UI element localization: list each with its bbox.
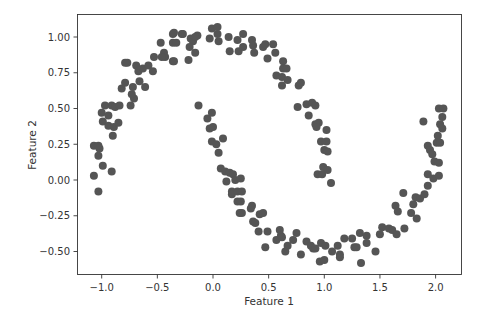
data-point	[279, 57, 287, 65]
data-point	[116, 102, 124, 110]
data-point	[239, 43, 247, 51]
data-point	[297, 79, 305, 87]
data-point	[409, 200, 417, 208]
data-point	[378, 223, 386, 231]
data-point	[294, 103, 302, 111]
data-point	[313, 123, 321, 131]
data-point	[255, 228, 263, 236]
data-point	[353, 243, 361, 251]
data-point	[170, 29, 178, 37]
data-point	[250, 49, 258, 57]
data-point	[434, 132, 442, 140]
data-point	[90, 172, 98, 180]
data-point	[104, 112, 112, 120]
data-point	[215, 37, 223, 45]
data-point	[209, 123, 217, 131]
data-point	[293, 229, 301, 237]
scatter-chart: −1.0−0.50.00.51.01.52.0 1.000.750.500.25…	[0, 0, 480, 323]
data-point	[284, 76, 292, 84]
data-point	[128, 90, 136, 98]
data-point	[251, 219, 259, 227]
data-point	[157, 39, 165, 47]
data-point	[114, 119, 122, 127]
data-point	[94, 152, 102, 160]
data-point	[421, 190, 429, 198]
x-axis-label: Feature 1	[244, 295, 294, 307]
data-point	[99, 162, 107, 170]
data-point	[289, 236, 297, 244]
data-point	[121, 59, 129, 67]
data-point	[323, 126, 331, 134]
data-point	[419, 117, 427, 125]
data-point	[108, 167, 116, 175]
data-point	[264, 228, 272, 236]
data-point	[413, 215, 421, 223]
data-point	[127, 102, 135, 110]
data-point	[311, 245, 319, 253]
data-point	[185, 56, 193, 64]
data-point	[283, 65, 291, 73]
data-point	[172, 39, 180, 47]
data-point	[269, 40, 277, 48]
data-point	[247, 205, 255, 213]
data-point	[109, 132, 117, 140]
data-point	[394, 208, 402, 216]
data-point	[320, 256, 328, 264]
data-point	[435, 172, 443, 180]
data-point	[259, 209, 267, 217]
data-point	[363, 239, 371, 247]
data-point	[438, 125, 446, 133]
y-tick-label: 0.50	[48, 103, 70, 114]
x-tick-label: −0.5	[145, 282, 169, 293]
data-point	[249, 42, 257, 50]
data-point	[278, 82, 286, 90]
data-point	[238, 187, 246, 195]
data-point	[327, 179, 335, 187]
data-point	[94, 187, 102, 195]
data-point	[424, 182, 432, 190]
data-point	[215, 149, 223, 157]
data-point	[129, 83, 137, 91]
data-point	[334, 242, 342, 250]
data-point	[101, 102, 109, 110]
data-point	[239, 30, 247, 38]
data-point	[435, 159, 443, 167]
data-point	[297, 250, 305, 258]
data-point	[238, 209, 246, 217]
data-point	[121, 79, 129, 87]
data-point	[212, 140, 220, 148]
data-point	[208, 109, 216, 117]
data-point	[340, 235, 348, 243]
data-point	[399, 189, 407, 197]
data-point	[225, 33, 233, 41]
y-tick-label: −0.25	[39, 210, 70, 221]
y-tick-label: 0.25	[48, 139, 70, 150]
data-point	[372, 248, 380, 256]
data-point	[186, 43, 194, 51]
x-tick-label: 0.5	[261, 282, 277, 293]
data-point	[149, 67, 157, 75]
data-point	[214, 23, 222, 31]
data-point	[376, 230, 384, 238]
y-tick-label: −0.50	[39, 246, 70, 257]
data-point	[191, 49, 199, 57]
data-point	[363, 232, 371, 240]
data-point	[436, 139, 444, 147]
data-point	[195, 102, 203, 110]
y-tick-label: 0.75	[48, 67, 70, 78]
data-point	[226, 47, 234, 55]
data-point	[179, 30, 187, 38]
data-point	[336, 253, 344, 261]
data-point	[141, 83, 149, 91]
data-point	[191, 33, 199, 41]
data-point	[328, 248, 336, 256]
data-point	[400, 225, 408, 233]
data-point	[136, 77, 144, 85]
data-point	[324, 166, 332, 174]
data-point	[428, 150, 436, 158]
data-point	[222, 177, 230, 185]
x-tick-label: −1.0	[90, 282, 114, 293]
data-point	[321, 242, 329, 250]
data-point	[323, 137, 331, 145]
data-point	[150, 53, 158, 61]
